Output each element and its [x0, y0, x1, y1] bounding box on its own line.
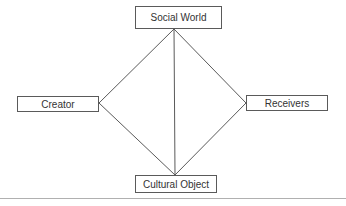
edge-receivers-cultural-object	[175, 103, 246, 175]
edge-creator-cultural-object	[99, 103, 175, 175]
node-creator: Creator	[17, 96, 99, 112]
node-cultural-object: Cultural Object	[135, 175, 217, 193]
node-creator-label: Creator	[41, 99, 74, 110]
node-social-world-label: Social World	[151, 12, 207, 23]
node-social-world: Social World	[135, 6, 222, 29]
edge-social-world-creator	[99, 29, 174, 103]
edge-social-world-receivers	[174, 29, 246, 103]
horizontal-rule	[0, 198, 346, 199]
node-cultural-object-label: Cultural Object	[143, 179, 209, 190]
edge-social-world-cultural-object	[174, 29, 175, 175]
cultural-diamond-diagram: Social World Creator Receivers Cultural …	[0, 0, 346, 206]
node-receivers: Receivers	[246, 95, 328, 111]
node-receivers-label: Receivers	[265, 98, 309, 109]
